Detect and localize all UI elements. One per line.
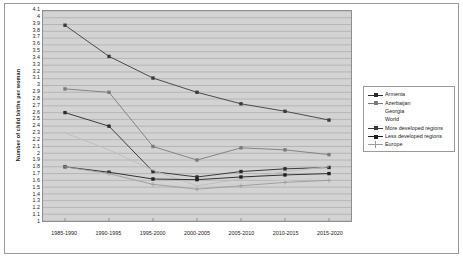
series-armenia (63, 111, 330, 179)
y-axis-tick: 2.7 (33, 103, 41, 108)
legend-swatch-icon (368, 108, 383, 115)
data-point-marker (107, 91, 110, 94)
data-point-marker (283, 148, 286, 151)
data-point-marker (195, 91, 198, 94)
data-point-marker (239, 170, 242, 173)
legend-swatch-icon (368, 92, 383, 99)
legend-label: World (385, 117, 399, 122)
y-axis-tick: 1.5 (33, 185, 41, 190)
y-axis-tick: 2 (37, 151, 40, 156)
data-point-marker (151, 76, 154, 79)
data-point-marker (107, 55, 110, 58)
legend-label: Less developed regions (385, 134, 442, 139)
y-axis-tick: 3.3 (33, 62, 41, 67)
data-point-marker (283, 110, 286, 113)
data-point-marker (63, 87, 66, 90)
y-axis-tick: 4 (37, 14, 40, 19)
y-axis-tick: 2.5 (33, 117, 41, 122)
y-axis-tick: 1.1 (33, 212, 41, 217)
data-point-marker (151, 177, 154, 180)
legend-item-armenia[interactable]: Armenia (368, 91, 451, 99)
data-point-marker (151, 145, 154, 148)
legend-item-less-developed-regions[interactable]: Less developed regions (368, 132, 451, 140)
legend-label: More developed regions (385, 126, 443, 131)
x-axis-tick-labels: 1985-19901990-19951995-20002000-20052005… (42, 226, 352, 240)
y-axis-tick: 2.2 (33, 137, 41, 142)
y-axis-tick: 3.5 (33, 48, 41, 53)
legend-label: Georgia (385, 109, 404, 114)
data-point-marker (327, 153, 330, 156)
data-point-marker (239, 175, 242, 178)
y-axis-tick: 1.2 (33, 206, 41, 211)
data-point-marker (327, 172, 330, 175)
y-axis-tick: 1.3 (33, 199, 41, 204)
y-axis-tick: 3.7 (33, 35, 41, 40)
x-axis-tick: 1990-1995 (96, 231, 122, 236)
plot-svg (43, 11, 351, 221)
data-point-marker (239, 102, 242, 105)
y-axis-tick: 1.6 (33, 178, 41, 183)
plot-area (42, 10, 352, 222)
y-axis-tick: 1.7 (33, 171, 41, 176)
y-axis-tick: 2.1 (33, 144, 41, 149)
chart-container: Number of child births per woman 4.143.9… (0, 0, 463, 257)
y-axis-tick: 2.4 (33, 124, 41, 129)
legend-swatch-icon (368, 100, 383, 107)
legend-item-europe[interactable]: Europe (368, 141, 451, 149)
y-axis-tick: 2.6 (33, 110, 41, 115)
y-axis-tick: 3.4 (33, 55, 41, 60)
data-point-marker (63, 24, 66, 27)
x-axis-tick: 2015-2020 (317, 231, 343, 236)
y-axis-tick-labels: 4.143.93.83.73.63.53.43.33.23.132.92.82.… (14, 10, 40, 222)
y-axis-tick: 1.4 (33, 192, 41, 197)
data-point-marker (239, 146, 242, 149)
y-axis-tick: 3 (37, 83, 40, 88)
y-axis-tick: 3.8 (33, 28, 41, 33)
data-point-marker (195, 178, 198, 181)
legend-item-more-developed-regions[interactable]: More developed regions (368, 124, 451, 132)
legend-item-world[interactable]: World (368, 116, 451, 124)
y-axis-tick: 2.3 (33, 130, 41, 135)
y-axis-tick: 2.8 (33, 96, 41, 101)
y-axis-tick: 1.9 (33, 158, 41, 163)
data-point-marker (327, 166, 330, 169)
x-axis-tick: 1995-2000 (140, 231, 166, 236)
x-axis-tick: 2000-2005 (184, 231, 210, 236)
y-axis-tick: 2.9 (33, 89, 41, 94)
chart-legend: ArmeniaAzerbaijanGeorgiaWorldMore develo… (363, 86, 455, 152)
y-axis-tick: 3.9 (33, 21, 41, 26)
y-axis-tick: 1.8 (33, 165, 41, 170)
y-axis-tick: 3.2 (33, 69, 41, 74)
legend-swatch-icon (368, 125, 383, 132)
y-axis-tick: 4.1 (33, 7, 41, 12)
legend-swatch-icon (368, 133, 383, 140)
series-line (65, 113, 329, 177)
legend-item-azerbaijan[interactable]: Azerbaijan (368, 99, 451, 107)
x-axis-tick: 1985-1990 (51, 231, 77, 236)
data-point-marker (283, 173, 286, 176)
data-point-marker (327, 118, 330, 121)
legend-label: Armenia (385, 92, 405, 97)
x-axis-tick: 2005-2010 (228, 231, 254, 236)
legend-item-georgia[interactable]: Georgia (368, 108, 451, 116)
legend-swatch-icon (368, 141, 383, 148)
data-point-marker (107, 124, 110, 127)
y-axis-tick: 3.6 (33, 41, 41, 46)
x-axis-tick: 2010-2015 (273, 231, 299, 236)
y-axis-tick: 3.1 (33, 76, 41, 81)
data-point-marker (63, 111, 66, 114)
data-point-marker (283, 167, 286, 170)
y-axis-tick: 1 (37, 219, 40, 224)
legend-label: Europe (385, 142, 402, 147)
legend-label: Azerbaijan (385, 101, 410, 106)
data-point-marker (195, 158, 198, 161)
legend-swatch-icon (368, 117, 383, 124)
